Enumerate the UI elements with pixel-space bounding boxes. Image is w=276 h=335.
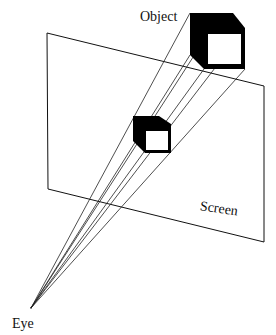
eye-point	[30, 307, 32, 309]
object-cube	[190, 13, 245, 69]
screen-label: Screen	[199, 198, 239, 218]
object-cube-front-face	[208, 34, 241, 64]
projected-cube-front-face	[146, 131, 168, 150]
projection-ray	[31, 55, 190, 308]
object-label: Object	[140, 9, 177, 24]
perspective-diagram: Object Screen Eye	[0, 0, 276, 335]
projected-cube	[133, 116, 171, 153]
eye-label: Eye	[12, 316, 34, 331]
projection-ray	[31, 69, 245, 308]
diagram-canvas: Object Screen Eye	[0, 0, 276, 335]
projection-ray	[31, 34, 208, 308]
projection-ray	[31, 13, 190, 308]
projection-ray	[31, 34, 241, 308]
projection-ray	[31, 69, 204, 308]
